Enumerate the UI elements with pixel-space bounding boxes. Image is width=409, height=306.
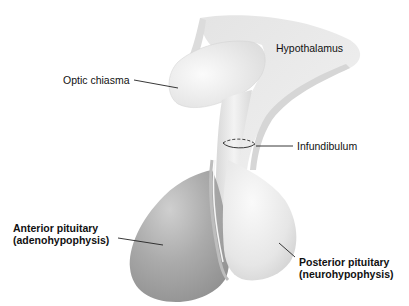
- posterior-pituitary-label: Posterior pituitary (neurohypophysis): [299, 256, 394, 280]
- infundibulum-label: Infundibulum: [297, 140, 357, 152]
- anterior-pituitary-alt-name: (adenohypophysis): [13, 234, 109, 246]
- anterior-pituitary-label: Anterior pituitary (adenohypophysis): [13, 222, 109, 246]
- posterior-pituitary-name: Posterior pituitary: [299, 256, 394, 268]
- anterior-pituitary-name: Anterior pituitary: [13, 222, 109, 234]
- posterior-pituitary-alt-name: (neurohypophysis): [299, 268, 394, 280]
- optic-chiasma-label: Optic chiasma: [63, 74, 130, 86]
- hypothalamus-label: Hypothalamus: [276, 42, 343, 54]
